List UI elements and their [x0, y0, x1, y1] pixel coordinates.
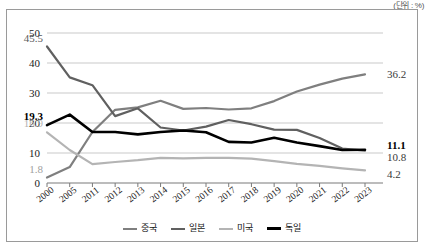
x-axis-tick-label: 2023 — [353, 185, 374, 205]
data-label-end-중국: 36.2 — [387, 68, 406, 80]
x-axis-tick-label: 2016 — [194, 185, 215, 205]
legend-swatch-icon — [123, 228, 137, 230]
y-axis-tick-label: 0 — [35, 177, 41, 189]
series-line-독일 — [47, 115, 365, 150]
x-axis-tick-label: 2019 — [262, 185, 283, 205]
legend-label: 중국 — [141, 224, 157, 233]
data-label-start-미국: 16.9 — [24, 117, 44, 129]
chart-legend: 중국일본미국독일 — [7, 224, 417, 233]
chart-frame: 0102030405020002005201120122013201420152… — [6, 9, 418, 242]
y-axis-tick-label: 10 — [29, 147, 41, 159]
legend-item-중국[interactable]: 중국 — [123, 224, 157, 233]
data-label-start-중국: 1.8 — [29, 163, 43, 175]
x-axis-tick-label: 2005 — [57, 185, 78, 205]
data-label-start-일본: 45.5 — [24, 32, 44, 44]
x-axis-tick-label: 2013 — [125, 185, 146, 205]
legend-swatch-icon — [171, 228, 185, 230]
legend-label: 미국 — [237, 224, 253, 233]
x-axis-tick-label: 2012 — [103, 185, 124, 205]
series-line-일본 — [47, 47, 365, 151]
y-axis-tick-label: 30 — [29, 87, 41, 99]
x-axis-tick-label: 2018 — [239, 185, 260, 205]
legend-item-독일[interactable]: 독일 — [267, 224, 301, 233]
legend-label: 일본 — [189, 224, 205, 233]
x-axis-tick-label: 2020 — [284, 185, 305, 205]
data-label-end-독일: 11.1 — [387, 139, 406, 151]
legend-swatch-icon — [267, 227, 281, 230]
legend-swatch-icon — [219, 228, 233, 230]
x-axis-tick-label: 2011 — [80, 185, 101, 205]
data-label-end-일본: 10.8 — [387, 151, 407, 163]
legend-item-미국[interactable]: 미국 — [219, 224, 253, 233]
legend-label: 독일 — [285, 224, 301, 233]
x-axis-tick-label: 2015 — [171, 185, 192, 205]
x-axis-tick-label: 2022 — [330, 185, 351, 205]
plot-area: 0102030405020002005201120122013201420152… — [7, 10, 419, 243]
y-axis-tick-label: 40 — [29, 57, 41, 69]
data-label-end-미국: 4.2 — [387, 168, 401, 180]
x-axis-tick-label: 2017 — [216, 185, 237, 205]
legend-item-일본[interactable]: 일본 — [171, 224, 205, 233]
x-axis-tick-label: 2014 — [148, 185, 169, 205]
x-axis-tick-label: 2021 — [307, 185, 328, 205]
line-chart-svg: 0102030405020002005201120122013201420152… — [7, 10, 419, 243]
